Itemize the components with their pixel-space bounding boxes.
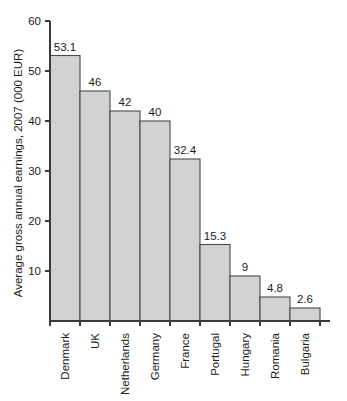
bar-value-label: 53.1: [54, 41, 76, 53]
bar-value-label: 40: [149, 106, 162, 118]
bar[interactable]: [260, 297, 290, 321]
bar-value-label: 15.3: [204, 230, 226, 242]
bar[interactable]: [80, 91, 110, 321]
bar[interactable]: [170, 159, 200, 321]
y-tick-label: 40: [28, 115, 41, 127]
bar-value-label: 9: [242, 261, 248, 273]
x-category-label: Romania: [269, 332, 281, 379]
bar[interactable]: [200, 245, 230, 322]
x-category-label: Portugal: [209, 333, 221, 376]
y-tick-label: 60: [28, 15, 41, 27]
bar[interactable]: [110, 111, 140, 321]
bar-value-label: 46: [89, 76, 102, 88]
x-category-label: Hungary: [239, 333, 251, 377]
category-label-group: DenmarkUKNetherlandsGermanyFrancePortuga…: [59, 332, 311, 395]
bar[interactable]: [50, 56, 80, 322]
x-category-label: Germany: [149, 333, 161, 381]
y-tick-label: 20: [28, 215, 41, 227]
x-category-label: UK: [89, 333, 101, 349]
x-category-label: Bulgaria: [299, 332, 311, 375]
y-tick-label: 10: [28, 265, 41, 277]
bar-value-label: 4.8: [267, 282, 283, 294]
bar[interactable]: [230, 276, 260, 321]
x-tick-mark-group: [50, 321, 320, 326]
y-tick-label-group: 102030405060: [28, 15, 41, 277]
bar-value-label: 2.6: [297, 293, 313, 305]
x-category-label: France: [179, 333, 191, 369]
x-category-label: Denmark: [59, 333, 71, 380]
bar[interactable]: [140, 121, 170, 321]
chart-canvas: Average gross annual earnings, 2007 (000…: [0, 0, 347, 401]
bar-value-label: 32.4: [174, 144, 197, 156]
y-tick-label: 50: [28, 65, 41, 77]
y-tick-mark-group: [45, 21, 50, 271]
bar-chart: Average gross annual earnings, 2007 (000…: [0, 0, 347, 401]
x-category-label: Netherlands: [119, 333, 131, 395]
bar[interactable]: [290, 308, 320, 321]
y-tick-label: 30: [28, 165, 41, 177]
y-axis-title-group: Average gross annual earnings, 2007 (000…: [12, 49, 24, 298]
bar-value-label: 42: [119, 96, 132, 108]
y-axis-title: Average gross annual earnings, 2007 (000…: [12, 49, 24, 298]
